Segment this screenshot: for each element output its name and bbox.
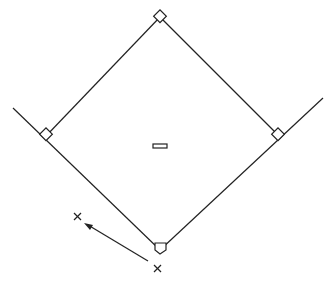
left-foul-line	[13, 108, 160, 250]
right-foul-line	[160, 98, 323, 250]
third-to-second-baseline	[46, 17, 160, 136]
home-plate	[155, 243, 166, 254]
arrow-head-icon	[84, 223, 93, 230]
first-to-second-baseline	[160, 17, 278, 135]
catcher-x-marker	[154, 265, 161, 272]
runner-x-marker	[74, 213, 81, 220]
baseball-diamond-diagram	[0, 0, 333, 284]
third-base	[40, 128, 53, 141]
pitchers-rubber	[153, 144, 167, 148]
